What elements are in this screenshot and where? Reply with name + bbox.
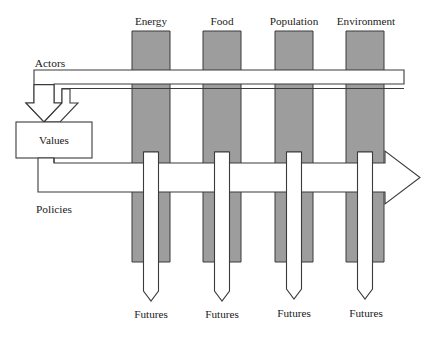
- sector-flow-diagram: Values Energy Food Population Environmen…: [0, 0, 430, 345]
- futures-arrow-population: [287, 152, 302, 299]
- futures-arrow-shape-environment: [358, 152, 373, 299]
- futures-label-energy: Futures: [134, 308, 168, 320]
- futures-arrow-energy: [144, 152, 159, 301]
- futures-label-population: Futures: [277, 307, 311, 319]
- futures-arrow-environment: [358, 152, 373, 299]
- futures-arrow-shape-food: [215, 152, 230, 301]
- diagram-canvas: Values Energy Food Population Environmen…: [0, 0, 430, 345]
- policies-band-label: Policies: [36, 203, 73, 215]
- futures-arrow-shape-energy: [144, 152, 159, 301]
- futures-label-food: Futures: [205, 308, 239, 320]
- actors-band-label: Actors: [35, 57, 66, 69]
- futures-label-environment: Futures: [349, 307, 383, 319]
- column-label-food: Food: [210, 15, 233, 27]
- column-label-population: Population: [270, 15, 319, 27]
- values-box-label: Values: [39, 134, 69, 146]
- futures-arrow-food: [215, 152, 230, 301]
- futures-arrow-shape-population: [287, 152, 302, 299]
- column-label-environment: Environment: [337, 15, 396, 27]
- column-label-energy: Energy: [135, 15, 168, 27]
